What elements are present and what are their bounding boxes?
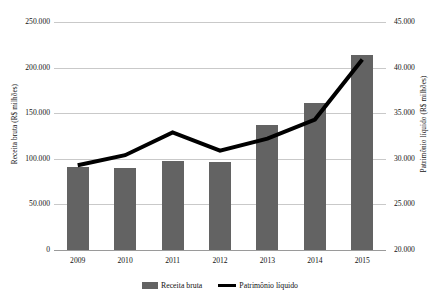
y-axis-left-tick-label: 0 xyxy=(46,246,50,254)
line-path xyxy=(78,59,363,165)
y-axis-right-tick-label: 40.000 xyxy=(394,64,415,72)
y-axis-right-tick-label: 25.000 xyxy=(394,200,415,208)
y-axis-right-tick-label: 20.000 xyxy=(394,246,415,254)
y-axis-left-tick-label: 250.000 xyxy=(25,18,50,26)
legend-label: Patrimônio líquido xyxy=(239,281,298,290)
chart-legend: Receita brutaPatrimônio líquido xyxy=(0,281,440,290)
legend-label: Receita bruta xyxy=(161,281,202,290)
x-axis-tick-label: 2009 xyxy=(54,256,102,265)
legend-item: Receita bruta xyxy=(142,281,202,290)
legend-line-swatch-icon xyxy=(218,284,236,287)
x-axis-labels: 2009201020112012201320142015 xyxy=(54,256,386,270)
chart-container: Receita bruta (R$ milhões) Patrimônio lí… xyxy=(0,0,440,305)
x-axis-tick-label: 2011 xyxy=(149,256,197,265)
y-axis-left-ticks: 250.000200.000150.000100.00050.0000 xyxy=(8,0,50,305)
y-axis-right-tick-label: 30.000 xyxy=(394,155,415,163)
x-axis-tick-label: 2015 xyxy=(338,256,386,265)
x-axis-tick-label: 2014 xyxy=(291,256,339,265)
y-axis-right-tick-label: 45.000 xyxy=(394,18,415,26)
legend-bar-swatch-icon xyxy=(142,282,158,289)
y-axis-left-tick-label: 200.000 xyxy=(25,64,50,72)
x-axis-tick-label: 2010 xyxy=(101,256,149,265)
y-axis-left-tick-label: 100.000 xyxy=(25,155,50,163)
gridline xyxy=(54,250,386,251)
y-axis-left-tick-label: 50.000 xyxy=(29,200,50,208)
y-axis-right-ticks: 45.00040.00035.00030.00025.00020.000 xyxy=(394,0,440,305)
y-axis-left-tick-label: 150.000 xyxy=(25,109,50,117)
line-series-patrimonio-liquido xyxy=(54,22,386,250)
y-axis-right-tick-label: 35.000 xyxy=(394,109,415,117)
plot-area xyxy=(54,22,386,250)
x-axis-tick-label: 2013 xyxy=(243,256,291,265)
legend-item: Patrimônio líquido xyxy=(218,281,298,290)
x-axis-tick-label: 2012 xyxy=(196,256,244,265)
